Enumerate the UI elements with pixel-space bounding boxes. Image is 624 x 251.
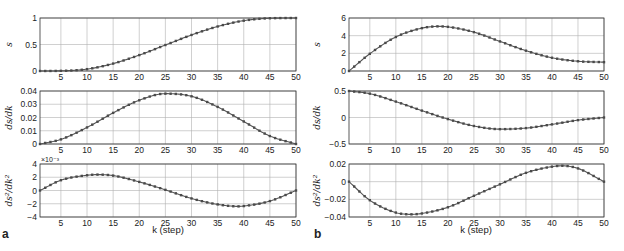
- data-marker: [384, 97, 386, 99]
- data-marker: [540, 167, 542, 169]
- data-marker: [232, 205, 234, 207]
- data-marker: [535, 126, 537, 128]
- data-marker: [374, 49, 376, 51]
- data-marker: [462, 28, 464, 30]
- y-tick-label: −0.5: [329, 139, 346, 149]
- x-tick-label: 30: [495, 145, 505, 155]
- data-marker: [494, 128, 496, 130]
- data-marker: [384, 208, 386, 210]
- data-marker: [284, 17, 286, 19]
- data-marker: [483, 34, 485, 36]
- data-marker: [253, 203, 255, 205]
- x-tick-label: 50: [599, 145, 609, 155]
- data-marker: [504, 42, 506, 44]
- data-marker: [379, 95, 381, 97]
- data-marker: [81, 175, 83, 177]
- y-tick-label: 0: [341, 66, 346, 76]
- y-axis-label: ds/dk: [4, 105, 14, 130]
- data-marker: [358, 61, 360, 63]
- data-marker: [128, 58, 130, 60]
- x-tick-label: 20: [443, 218, 453, 228]
- data-marker: [211, 103, 213, 105]
- data-marker: [540, 125, 542, 127]
- x-tick-label: 50: [599, 218, 609, 228]
- y-tick-label: 0.5: [334, 86, 346, 96]
- data-marker: [216, 203, 218, 205]
- data-marker: [592, 175, 594, 177]
- x-tick-label: 50: [291, 218, 301, 228]
- data-marker: [295, 17, 297, 19]
- data-marker: [566, 59, 568, 61]
- data-marker: [566, 121, 568, 123]
- data-marker: [577, 167, 579, 169]
- x-tick-label: 25: [469, 72, 479, 82]
- data-marker: [164, 189, 166, 191]
- data-marker: [478, 33, 480, 35]
- data-marker: [211, 202, 213, 204]
- data-marker: [258, 129, 260, 131]
- data-marker: [457, 202, 459, 204]
- data-marker: [49, 141, 51, 143]
- data-marker: [39, 70, 41, 72]
- y-tick-label: 4: [341, 31, 346, 41]
- y-tick-label: 0: [32, 66, 37, 76]
- data-marker: [107, 64, 109, 66]
- x-tick-label: 10: [82, 72, 92, 82]
- data-marker: [353, 65, 355, 67]
- data-marker: [525, 49, 527, 51]
- x-tick-label: 10: [82, 145, 92, 155]
- data-marker: [81, 129, 83, 131]
- x-tick-label: 20: [135, 218, 145, 228]
- data-marker: [227, 205, 229, 207]
- x-tick-label: 30: [495, 218, 505, 228]
- x-tick-label: 45: [573, 145, 583, 155]
- data-marker: [441, 116, 443, 118]
- x-axis-label-b: k (step): [460, 224, 492, 235]
- x-tick-label: 15: [108, 218, 118, 228]
- data-marker: [65, 70, 67, 72]
- x-tick-label: 25: [469, 145, 479, 155]
- data-marker: [530, 170, 532, 172]
- data-marker: [185, 94, 187, 96]
- y-tick-label: 0.01: [20, 126, 37, 136]
- data-marker: [530, 51, 532, 53]
- data-marker: [410, 106, 412, 108]
- data-marker: [112, 174, 114, 176]
- y-tick-label: −4: [27, 212, 37, 222]
- data-marker: [467, 197, 469, 199]
- data-marker: [284, 140, 286, 142]
- data-marker: [227, 111, 229, 113]
- x-tick-label: 30: [187, 145, 197, 155]
- data-marker: [514, 176, 516, 178]
- data-marker: [274, 137, 276, 139]
- data-marker: [488, 36, 490, 38]
- data-marker: [348, 90, 350, 92]
- data-marker: [369, 92, 371, 94]
- x-tick-label: 30: [187, 218, 197, 228]
- data-marker: [592, 117, 594, 119]
- data-marker: [232, 21, 234, 23]
- subplot-b-1: 5101520253035404550−0.500.5ds/dk: [312, 86, 609, 155]
- x-tick-label: 35: [521, 218, 531, 228]
- data-marker: [395, 36, 397, 38]
- x-tick-label: 10: [391, 72, 401, 82]
- x-tick-label: 5: [367, 218, 372, 228]
- x-tick-label: 40: [239, 218, 249, 228]
- data-marker: [494, 185, 496, 187]
- x-tick-label: 10: [82, 218, 92, 228]
- data-marker: [222, 108, 224, 110]
- x-tick-label: 35: [521, 145, 531, 155]
- x-tick-label: 15: [108, 72, 118, 82]
- data-marker: [556, 165, 558, 167]
- y-tick-label: −0.04: [324, 212, 346, 222]
- data-marker: [96, 66, 98, 68]
- data-marker: [180, 194, 182, 196]
- x-tick-label: 30: [495, 72, 505, 82]
- data-marker: [91, 67, 93, 69]
- data-marker: [561, 165, 563, 167]
- data-marker: [473, 125, 475, 127]
- data-marker: [279, 196, 281, 198]
- data-marker: [405, 213, 407, 215]
- y-tick-label: 0.03: [20, 99, 37, 109]
- data-marker: [546, 166, 548, 168]
